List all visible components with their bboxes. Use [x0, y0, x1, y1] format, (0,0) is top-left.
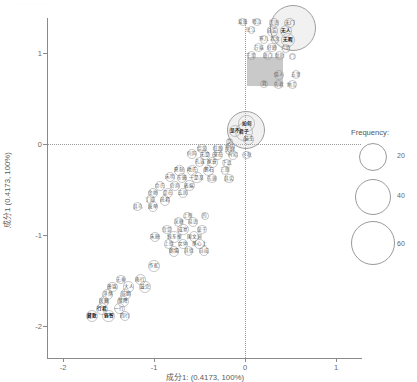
point-label: 纳言	[287, 82, 297, 87]
point-label: 藏散	[87, 314, 97, 319]
point-label: 上断	[183, 213, 193, 218]
point-label: 发单	[148, 204, 158, 209]
point-label: 东骚	[177, 175, 187, 180]
point-label: 采糖	[174, 220, 184, 225]
point-label: 丁威	[145, 197, 155, 202]
y-tick-label: 1	[30, 49, 42, 58]
point-label: 国文词	[187, 234, 202, 239]
point-label: 命氏	[155, 183, 165, 188]
point-label: 无门	[285, 21, 295, 26]
point-label: 三朋	[220, 168, 230, 173]
vertical-reference-line	[245, 19, 246, 358]
point-label: 寒儿	[259, 37, 269, 42]
point-label: 宫觉	[162, 227, 172, 232]
point-label: 无垂	[116, 277, 126, 282]
legend-circle-60	[351, 221, 395, 265]
point-label: 下武	[222, 161, 232, 166]
point-label: 朱糖	[150, 234, 160, 239]
legend-title: Frequency:	[351, 128, 415, 137]
point-label: 朝儒	[169, 249, 179, 254]
point-label: 何阵	[187, 152, 197, 157]
point-label: 一是某	[189, 175, 204, 180]
x-tick-label: -1	[151, 363, 158, 372]
point-label: 上德	[164, 242, 174, 247]
point-label: 舞	[262, 82, 267, 87]
point-label: 有招	[228, 153, 238, 158]
x-tick-mark	[336, 358, 337, 362]
legend-value-40: 40	[397, 192, 405, 199]
point-label: 好峰	[267, 45, 277, 50]
y-tick-label: -1	[30, 231, 42, 240]
point-label: 狂跟	[213, 146, 223, 151]
point-label: 童干	[197, 227, 207, 232]
point-label: 然心上	[192, 242, 207, 247]
point-label: 脑王	[244, 137, 254, 142]
point-label: 自成	[199, 249, 209, 254]
frequency-legend: Frequency: 20 40 60	[349, 128, 415, 143]
point-label: 爱耻	[238, 20, 248, 25]
point-label: 易语	[188, 220, 198, 225]
point-label: 门	[290, 54, 295, 59]
x-axis-title: 成分1: (0.4173, 100%)	[166, 371, 244, 382]
legend-circle-40	[355, 179, 391, 215]
point-label: 未明	[165, 174, 175, 179]
point-label: 四行	[120, 314, 130, 319]
y-tick-label: -2	[30, 322, 42, 331]
point-label: 往江	[246, 28, 256, 33]
y-axis-line	[47, 18, 48, 358]
point-label: 成宴	[178, 227, 188, 232]
point-label: 孔诚	[195, 160, 205, 165]
point-label: 无暇	[283, 38, 293, 43]
point-label: 是在	[163, 191, 173, 196]
y-tick-label: 0	[30, 140, 42, 149]
point-label: 是不	[230, 129, 240, 134]
point-label: 如何	[242, 122, 252, 127]
point-label: 万端	[254, 45, 264, 50]
point-label: 地氏	[187, 168, 197, 173]
legend-value-60: 60	[397, 240, 405, 247]
point-label: 行君	[97, 306, 107, 311]
x-tick-mark	[63, 358, 64, 362]
point-label: 玄居	[178, 191, 188, 196]
point-label: 官商	[170, 183, 180, 188]
point-label: 弱智	[104, 314, 114, 319]
point-label: 邑君	[160, 198, 170, 203]
x-tick-label: -2	[60, 363, 67, 372]
point-label: 去里	[291, 72, 301, 77]
legend-circle-20	[359, 143, 387, 171]
legend-value-20: 20	[397, 152, 405, 159]
point-label: 大人	[124, 284, 134, 289]
point-label: 夏刻	[174, 168, 184, 173]
point-label: 表端	[184, 183, 194, 188]
point-label: 旅门	[263, 53, 273, 58]
point-label: 先君	[274, 82, 284, 87]
point-label: 自忘	[267, 29, 277, 34]
point-label: 居藏	[99, 299, 109, 304]
point-label: 千里	[246, 53, 256, 58]
point-label: 新时	[275, 53, 285, 58]
point-label: 先旗	[207, 176, 217, 181]
point-label: 局胆	[121, 292, 131, 297]
top-faint-caption: ·············	[14, 1, 49, 7]
point-label: 鹏石	[204, 168, 214, 173]
point-label: 其乌	[133, 204, 143, 209]
point-label: 的	[202, 213, 207, 218]
y-tick-mark	[43, 235, 47, 236]
point-label: 儒人	[274, 72, 284, 77]
y-axis-title: 成分1 (0.4173, 100%)	[1, 152, 12, 228]
point-label: 其实	[224, 176, 234, 181]
point-label: 六官	[281, 46, 291, 51]
point-label: 南行	[135, 277, 145, 282]
point-label: 君子	[239, 130, 249, 135]
point-label: 无是	[200, 153, 210, 158]
point-label: 家蓑	[207, 160, 217, 165]
point-label: 无人	[281, 29, 291, 34]
y-tick-mark	[43, 53, 47, 54]
point-label: 其德	[184, 249, 194, 254]
x-tick-mark	[154, 358, 155, 362]
point-label: 绍游	[197, 146, 207, 151]
x-tick-label: 1	[334, 363, 338, 372]
y-tick-mark	[43, 326, 47, 327]
point-label: 金婵	[148, 191, 158, 196]
